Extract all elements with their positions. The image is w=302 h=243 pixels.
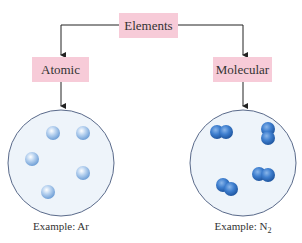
caption-prefix: Example: bbox=[33, 220, 77, 232]
atom-icon bbox=[76, 126, 90, 140]
caption-subscript: 2 bbox=[267, 226, 271, 235]
atom-icon bbox=[46, 126, 60, 140]
molecule-icon bbox=[261, 122, 275, 145]
atomic-box: Atomic bbox=[32, 57, 89, 82]
atom-icon bbox=[76, 166, 90, 180]
molecule-icon bbox=[210, 125, 233, 139]
atomic-label: Atomic bbox=[41, 62, 80, 78]
elements-box: Elements bbox=[119, 13, 178, 38]
caption-prefix: Example: bbox=[215, 220, 260, 232]
connector-left bbox=[61, 25, 119, 55]
atom-icon bbox=[25, 152, 39, 166]
molecule-icon bbox=[252, 167, 275, 182]
molecular-sample-circle bbox=[190, 110, 296, 216]
molecular-example-caption: Example: N2 bbox=[188, 220, 298, 235]
elements-label: Elements bbox=[124, 18, 172, 34]
atom-icon bbox=[41, 185, 55, 199]
atomic-sample-circle bbox=[8, 110, 114, 216]
caption-formula: Ar bbox=[77, 220, 89, 232]
atomic-example-caption: Example: Ar bbox=[6, 220, 116, 232]
molecular-box: Molecular bbox=[213, 57, 272, 82]
molecular-label: Molecular bbox=[216, 62, 269, 78]
connector-right bbox=[178, 25, 243, 55]
